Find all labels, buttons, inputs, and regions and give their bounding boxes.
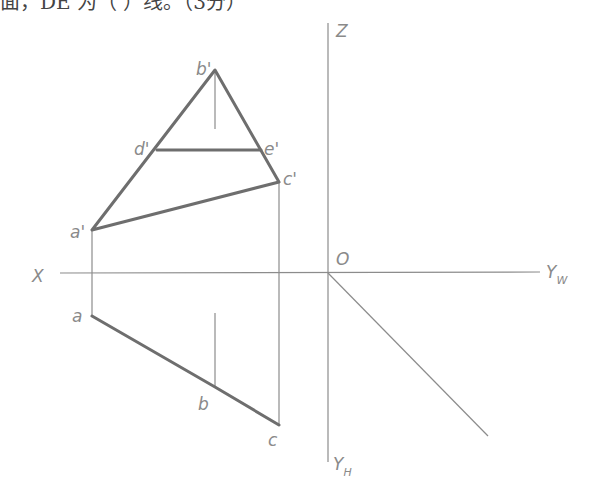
label-e-prime: e' bbox=[264, 139, 279, 159]
label-d-prime: d' bbox=[134, 139, 149, 159]
label-b: b bbox=[198, 394, 209, 414]
label-c-prime: c' bbox=[283, 169, 297, 189]
label-a: a bbox=[72, 306, 82, 326]
label-b-prime: b' bbox=[196, 59, 211, 79]
projection-diagram: Z X O YW YH b' d' e' c' a' a b c bbox=[0, 0, 589, 494]
45-degree-line bbox=[328, 273, 488, 436]
label-c: c bbox=[268, 430, 278, 450]
label-a-prime: a' bbox=[70, 222, 85, 242]
origin-label: O bbox=[336, 249, 349, 269]
x-yw-axis bbox=[60, 272, 540, 273]
yw-label: YW bbox=[546, 262, 568, 287]
top-view-line bbox=[92, 316, 279, 425]
x-label: X bbox=[31, 266, 44, 286]
yh-label: YH bbox=[333, 454, 352, 479]
z-label: Z bbox=[335, 21, 348, 41]
